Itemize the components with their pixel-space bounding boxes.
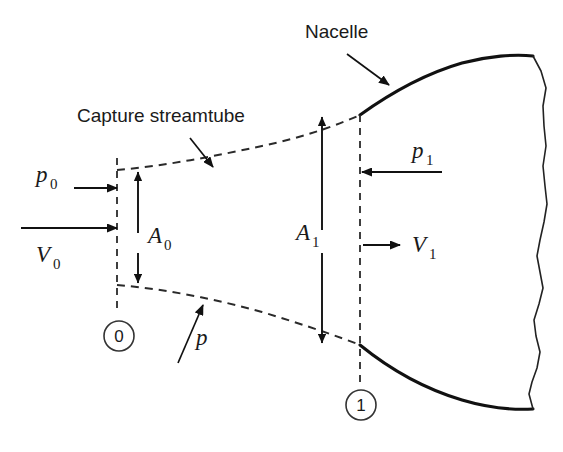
upstream-velocity-symbol: V (36, 242, 53, 267)
upstream-pressure-symbol: p (34, 162, 48, 187)
area-1-subscript: 1 (312, 234, 320, 250)
area-0-label: A 0 (146, 223, 172, 253)
diagram-canvas: 0 1 Nacelle Capture streamtube p 0 V 0 A… (0, 0, 563, 452)
nacelle-label: Nacelle (305, 21, 368, 42)
engineering-diagram: 0 1 Nacelle Capture streamtube p 0 V 0 A… (0, 0, 563, 452)
area-1-label: A 1 (294, 220, 320, 250)
station-0-label: 0 (114, 327, 123, 346)
capture-streamtube-leader-group (190, 138, 213, 167)
nacelle-leader-line (347, 54, 389, 85)
inlet-velocity-subscript: 1 (429, 246, 437, 262)
upstream-pressure-label: p 0 (34, 162, 58, 192)
nacelle-lower-cowl (360, 345, 533, 409)
nacelle-leader-group (347, 54, 389, 85)
nacelle-break-line (529, 56, 547, 409)
station-1-label: 1 (356, 396, 365, 415)
capture-streamtube-leader-line (190, 138, 213, 167)
area-0-subscript: 0 (164, 237, 172, 253)
area-0-symbol: A (146, 223, 163, 248)
nacelle-upper-cowl (360, 55, 533, 115)
station-0-marker: 0 (104, 321, 134, 351)
inlet-pressure-symbol: p (410, 138, 424, 163)
inlet-velocity-label: V 1 (412, 232, 437, 262)
static-pressure-symbol: p (194, 325, 208, 350)
inlet-pressure-subscript: 1 (426, 152, 434, 168)
streamtube-lower-boundary (117, 285, 360, 345)
inlet-pressure-label: p 1 (410, 138, 434, 168)
nacelle-body (360, 55, 547, 409)
upstream-velocity-subscript: 0 (53, 256, 61, 272)
upstream-velocity-label: V 0 (36, 242, 61, 272)
area-1-symbol: A (294, 220, 311, 245)
upstream-pressure-subscript: 0 (50, 176, 58, 192)
capture-streamtube-label: Capture streamtube (77, 105, 245, 126)
inlet-velocity-symbol: V (412, 232, 429, 257)
station-1-marker: 1 (346, 390, 376, 420)
